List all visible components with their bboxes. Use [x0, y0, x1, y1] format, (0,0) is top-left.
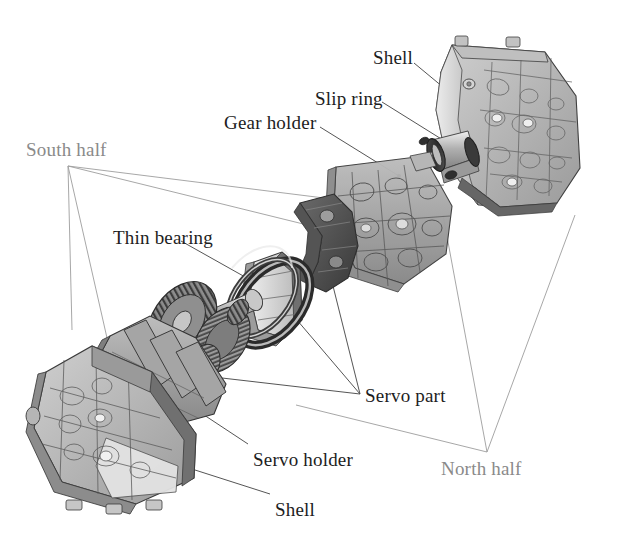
- label-shell-north: Shell: [373, 48, 413, 67]
- label-thin-bearing: Thin bearing: [113, 228, 213, 247]
- label-servo-holder: Servo holder: [253, 450, 353, 469]
- part-north-shell: [436, 36, 580, 216]
- label-north-half: North half: [441, 459, 522, 478]
- part-servo-upper: [294, 194, 358, 292]
- label-south-half: South half: [26, 140, 107, 159]
- label-servo-part: Servo part: [365, 386, 446, 405]
- label-slip-ring: Slip ring: [315, 89, 383, 108]
- label-gear-holder: Gear holder: [224, 113, 316, 132]
- exploded-view-figure: Shell Slip ring Gear holder South half T…: [0, 0, 622, 546]
- label-shell-south: Shell: [275, 500, 315, 519]
